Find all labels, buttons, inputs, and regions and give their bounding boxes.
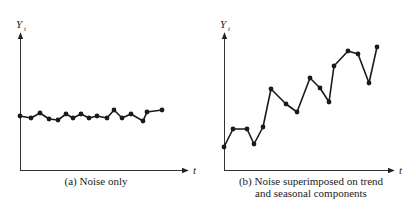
data-point xyxy=(245,127,250,132)
data-point xyxy=(332,64,337,69)
data-point xyxy=(95,114,100,119)
panel-a-x-label: t xyxy=(193,164,197,176)
data-point xyxy=(79,112,84,117)
panel-b-x-label: t xyxy=(399,164,403,176)
data-point xyxy=(284,102,289,107)
data-point xyxy=(112,108,117,113)
data-point xyxy=(356,52,361,57)
panel-a-series xyxy=(18,108,165,124)
data-point xyxy=(327,100,332,105)
data-point xyxy=(375,45,380,50)
panel-b-y-label: Y xyxy=(220,18,228,30)
panel-b-caption-line2: and seasonal components xyxy=(226,187,396,199)
panel-b-caption: (b) Noise superimposed on trend and seas… xyxy=(226,175,396,199)
data-point xyxy=(105,116,110,121)
data-point xyxy=(367,81,372,86)
data-point xyxy=(47,117,52,122)
data-point xyxy=(295,110,300,115)
data-point xyxy=(222,145,227,150)
data-point xyxy=(38,111,43,116)
data-point xyxy=(129,112,134,117)
data-point xyxy=(87,116,92,121)
data-point xyxy=(29,116,34,121)
panel-b-series xyxy=(222,45,380,150)
series-line xyxy=(224,47,377,147)
data-point xyxy=(269,87,274,92)
data-point xyxy=(308,76,313,81)
data-point xyxy=(56,118,61,123)
data-point xyxy=(318,86,323,91)
data-point xyxy=(141,119,146,124)
data-point xyxy=(71,116,76,121)
panel-b-caption-line1: (b) Noise superimposed on trend xyxy=(226,175,396,187)
data-point xyxy=(231,127,236,132)
data-point xyxy=(160,108,165,113)
data-point xyxy=(252,142,257,147)
data-point xyxy=(64,112,69,117)
data-point xyxy=(120,116,125,121)
data-point xyxy=(18,114,23,119)
panel-b-y-label-sub: t xyxy=(228,25,231,33)
data-point xyxy=(261,125,266,130)
panel-b-axes: Y t t xyxy=(220,18,403,176)
panel-a-y-label-sub: t xyxy=(24,25,27,33)
panel-a-y-label: Y xyxy=(16,18,24,30)
panel-a-caption: (a) Noise only xyxy=(40,175,152,187)
data-point xyxy=(145,110,150,115)
panel-a-axes: Y t t xyxy=(16,18,197,176)
data-point xyxy=(346,49,351,54)
